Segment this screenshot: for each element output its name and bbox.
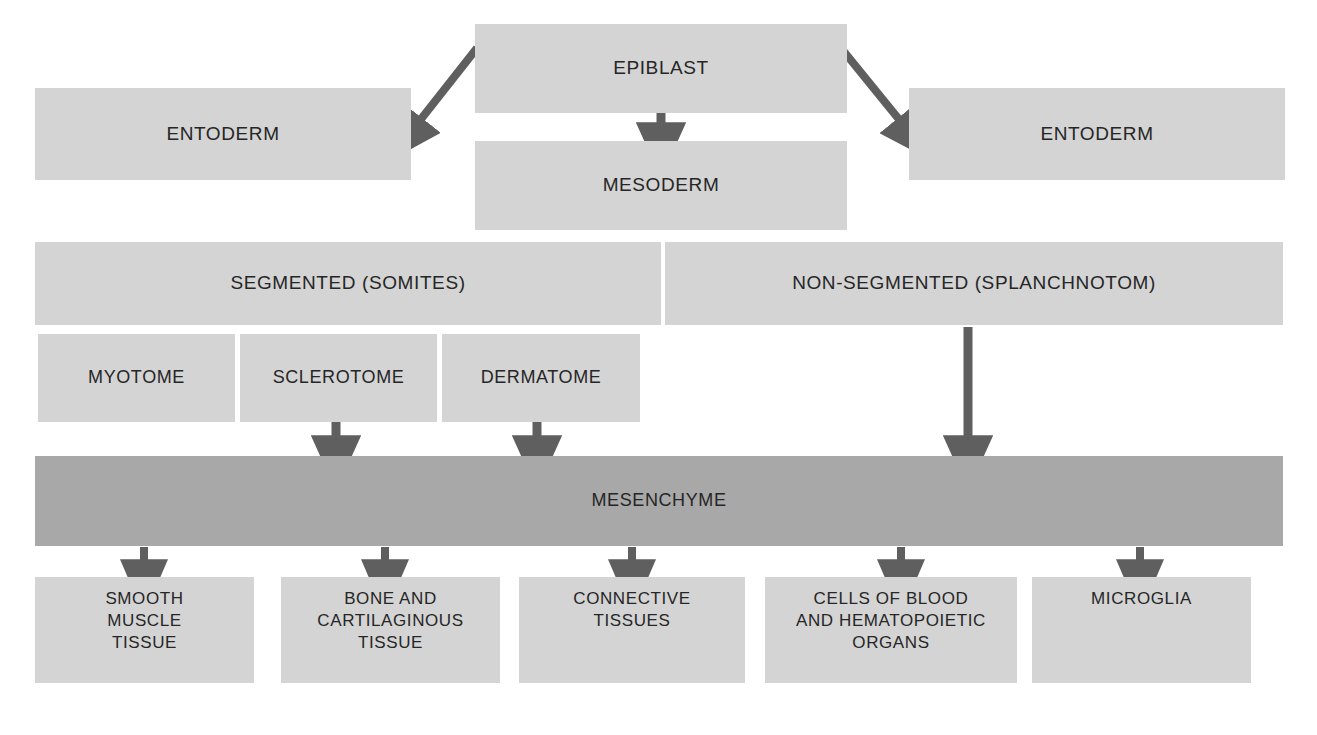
node-myotome[interactable]: MYOTOME <box>38 334 235 422</box>
arrow-epiblast-to-entoderm-right <box>841 48 906 128</box>
node-non-segmented-splanchnotom-label: NON-SEGMENTED (SPLANCHNOTOM) <box>786 271 1162 296</box>
node-mesoderm-label: MESODERM <box>597 173 726 198</box>
node-entoderm-left[interactable]: ENTODERM <box>35 88 411 180</box>
node-myotome-label: MYOTOME <box>82 366 191 389</box>
node-entoderm-left-label: ENTODERM <box>160 122 285 147</box>
node-smooth-muscle-tissue-label: SMOOTH MUSCLE TISSUE <box>99 588 189 654</box>
node-mesoderm[interactable]: MESODERM <box>475 141 847 230</box>
node-non-segmented-splanchnotom[interactable]: NON-SEGMENTED (SPLANCHNOTOM) <box>665 242 1283 325</box>
node-smooth-muscle-tissue[interactable]: SMOOTH MUSCLE TISSUE <box>35 577 254 683</box>
node-cells-of-blood-and-hematopoietic-organs-label: CELLS OF BLOOD AND HEMATOPOIETIC ORGANS <box>790 588 992 654</box>
arrow-epiblast-to-entoderm-left <box>414 48 477 128</box>
node-dermatome[interactable]: DERMATOME <box>442 334 640 422</box>
node-microglia[interactable]: MICROGLIA <box>1032 577 1251 683</box>
node-mesenchyme[interactable]: MESENCHYME <box>35 456 1283 546</box>
node-cells-of-blood-and-hematopoietic-organs[interactable]: CELLS OF BLOOD AND HEMATOPOIETIC ORGANS <box>765 577 1017 683</box>
node-entoderm-right-label: ENTODERM <box>1034 122 1159 147</box>
node-bone-and-cartilaginous-tissue-label: BONE AND CARTILAGINOUS TISSUE <box>311 588 469 654</box>
node-epiblast[interactable]: EPIBLAST <box>475 24 847 113</box>
mesoderm-derivatives-diagram: EPIBLAST ENTODERM ENTODERM MESODERM SEGM… <box>0 0 1317 735</box>
node-sclerotome[interactable]: SCLEROTOME <box>240 334 437 422</box>
node-dermatome-label: DERMATOME <box>475 366 608 389</box>
node-sclerotome-label: SCLEROTOME <box>267 366 411 389</box>
node-segmented-somites-label: SEGMENTED (SOMITES) <box>224 271 471 296</box>
node-connective-tissues[interactable]: CONNECTIVE TISSUES <box>519 577 745 683</box>
node-entoderm-right[interactable]: ENTODERM <box>909 88 1285 180</box>
node-mesenchyme-label: MESENCHYME <box>585 489 732 512</box>
node-microglia-label: MICROGLIA <box>1085 588 1198 610</box>
node-connective-tissues-label: CONNECTIVE TISSUES <box>567 588 696 632</box>
node-epiblast-label: EPIBLAST <box>607 56 715 81</box>
node-bone-and-cartilaginous-tissue[interactable]: BONE AND CARTILAGINOUS TISSUE <box>281 577 500 683</box>
node-segmented-somites[interactable]: SEGMENTED (SOMITES) <box>35 242 661 325</box>
